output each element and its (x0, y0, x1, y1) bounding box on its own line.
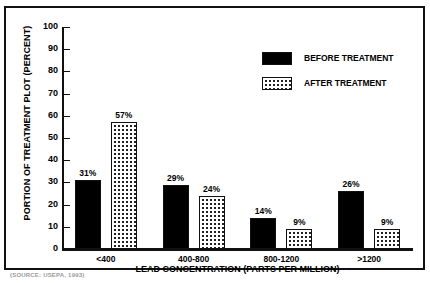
y-tick-label-20: 20 (28, 200, 58, 209)
solid-black-swatch-icon (262, 52, 292, 65)
y-tick-label-70: 70 (28, 89, 58, 98)
chart-frame: PORTION OF TREATMENT PLOT (PERCENT) 0102… (4, 6, 425, 270)
dotted-swatch-icon (262, 77, 292, 90)
x-axis-title: LEAD CONCENTRATION (PARTS PER MILLION) (62, 264, 413, 274)
bar-after-3[interactable] (374, 229, 400, 249)
bar-value-label-before-3: 26% (332, 179, 370, 189)
chart-screenshot: PORTION OF TREATMENT PLOT (PERCENT) 0102… (0, 0, 430, 283)
y-tick-label-0: 0 (28, 244, 58, 253)
bar-value-label-before-2: 14% (244, 206, 282, 216)
category-label-2: 800-1200 (241, 254, 321, 264)
bar-value-label-after-1: 24% (193, 184, 231, 194)
y-tick-label-80: 80 (28, 66, 58, 75)
legend-label-after: AFTER TREATMENT (304, 78, 386, 88)
bar-before-1[interactable] (163, 185, 189, 249)
legend-item-after: AFTER TREATMENT (262, 75, 394, 91)
category-label-0: <400 (66, 254, 146, 264)
bar-after-2[interactable] (286, 229, 312, 249)
category-label-1: 400-800 (154, 254, 234, 264)
y-tick-label-40: 40 (28, 155, 58, 164)
source-caption: (SOURCE: USEPA, 1993) (10, 272, 84, 278)
bar-value-label-after-0: 57% (105, 110, 143, 120)
bar-value-label-after-3: 9% (368, 217, 406, 227)
category-label-3: >1200 (329, 254, 409, 264)
bar-value-label-before-1: 29% (157, 173, 195, 183)
plot-area: PORTION OF TREATMENT PLOT (PERCENT) 0102… (6, 8, 427, 272)
y-tick-label-90: 90 (28, 44, 58, 53)
y-tick-label-30: 30 (28, 177, 58, 186)
y-tick-label-100: 100 (28, 22, 58, 31)
y-tick-label-10: 10 (28, 222, 58, 231)
y-tick-0 (64, 249, 70, 250)
bar-before-2[interactable] (250, 218, 276, 249)
bar-before-3[interactable] (338, 191, 364, 249)
bar-after-0[interactable] (111, 122, 137, 249)
y-tick-label-50: 50 (28, 133, 58, 142)
legend-label-before: BEFORE TREATMENT (304, 53, 394, 63)
bar-value-label-before-0: 31% (69, 168, 107, 178)
bar-value-label-after-2: 9% (280, 217, 318, 227)
bar-after-1[interactable] (199, 196, 225, 249)
legend-item-before: BEFORE TREATMENT (262, 50, 394, 66)
chart-legend: BEFORE TREATMENT AFTER TREATMENT (262, 50, 394, 100)
y-tick-label-60: 60 (28, 111, 58, 120)
bar-before-0[interactable] (75, 180, 101, 249)
